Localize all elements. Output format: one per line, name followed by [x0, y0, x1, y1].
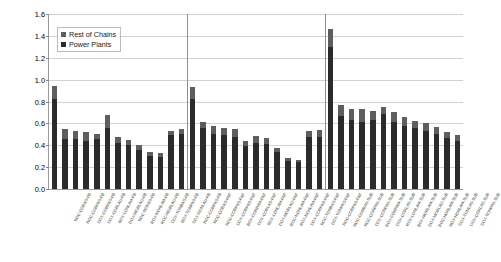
- bar-segment-power-plants: [253, 143, 259, 189]
- bar-segment-power-plants: [381, 114, 387, 189]
- bar-segment-power-plants: [285, 161, 291, 189]
- bar-segment-power-plants: [434, 134, 440, 189]
- bar-segment-power-plants: [190, 99, 196, 189]
- bar-segment-power-plants: [211, 134, 217, 189]
- bar: [221, 128, 227, 189]
- bar: [370, 111, 376, 189]
- bar-segment-power-plants: [412, 128, 418, 189]
- bar: [83, 132, 89, 189]
- bar: [402, 117, 408, 189]
- bar-segment-rest-of-chains: [190, 87, 196, 99]
- bar: [126, 140, 132, 189]
- legend-swatch-power-plants: [61, 42, 66, 47]
- bar-segment-power-plants: [455, 141, 461, 189]
- bar-segment-rest-of-chains: [370, 111, 376, 120]
- y-axis-tick-label: 0.0: [35, 185, 45, 194]
- bar: [94, 134, 100, 189]
- bar-segment-power-plants: [62, 139, 68, 189]
- bar: [115, 137, 121, 189]
- bar: [62, 129, 68, 189]
- bar: [444, 132, 450, 189]
- bar-segment-rest-of-chains: [328, 29, 334, 47]
- bar-segment-power-plants: [158, 157, 164, 189]
- bar-segment-power-plants: [73, 139, 79, 189]
- bar: [381, 107, 387, 189]
- y-axis-tick-label: 1.0: [35, 75, 45, 84]
- bar-segment-rest-of-chains: [232, 129, 238, 137]
- bar: [200, 122, 206, 189]
- bar-segment-power-plants: [147, 156, 153, 189]
- bar: [264, 138, 270, 189]
- bar-segment-rest-of-chains: [105, 115, 111, 128]
- bar-segment-power-plants: [168, 135, 174, 189]
- bar: [306, 131, 312, 189]
- bar-segment-rest-of-chains: [211, 126, 217, 134]
- bar: [243, 141, 249, 189]
- legend-label-rest-of-chains: Rest of Chains: [69, 30, 116, 39]
- bar-segment-rest-of-chains: [359, 109, 365, 122]
- bar: [232, 129, 238, 189]
- bar-segment-power-plants: [232, 137, 238, 189]
- bar-segment-rest-of-chains: [381, 107, 387, 114]
- bar-segment-power-plants: [306, 137, 312, 189]
- bar: [158, 153, 164, 189]
- bar: [338, 105, 344, 189]
- y-axis-tick-label: 0.4: [35, 141, 45, 150]
- y-axis-tick-label: 1.2: [35, 53, 45, 62]
- bar-segment-power-plants: [338, 116, 344, 189]
- bar-segment-power-plants: [423, 131, 429, 189]
- bar-segment-rest-of-chains: [73, 131, 79, 139]
- bar-segment-power-plants: [349, 120, 355, 189]
- bar-segment-power-plants: [52, 99, 58, 189]
- bar-segment-power-plants: [317, 137, 323, 190]
- y-axis-tick-label: 1.6: [35, 10, 45, 19]
- bar: [412, 121, 418, 189]
- y-axis-tick-label: 1.4: [35, 31, 45, 40]
- bar-segment-power-plants: [359, 122, 365, 189]
- bar: [73, 131, 79, 189]
- bar-segment-power-plants: [402, 126, 408, 189]
- bar: [285, 158, 291, 189]
- bar-segment-rest-of-chains: [62, 129, 68, 139]
- y-axis-tick-mark: [46, 189, 49, 190]
- bar-segment-power-plants: [126, 145, 132, 189]
- bar-segment-power-plants: [221, 135, 227, 189]
- bar-segment-rest-of-chains: [412, 121, 418, 129]
- bar-segment-rest-of-chains: [423, 123, 429, 131]
- bar: [423, 123, 429, 189]
- bar-segment-power-plants: [136, 150, 142, 189]
- bar: [168, 131, 174, 189]
- bar-segment-power-plants: [264, 144, 270, 189]
- bar: [434, 127, 440, 189]
- bar: [349, 109, 355, 189]
- bar-segment-power-plants: [94, 139, 100, 189]
- bar-segment-rest-of-chains: [83, 132, 89, 141]
- bar-segment-rest-of-chains: [221, 128, 227, 135]
- y-axis-title-wrapper: [Million YOLL / year (2020)]: [3, 8, 15, 190]
- y-axis-tick-label: 0.8: [35, 97, 45, 106]
- legend-swatch-rest-of-chains: [61, 32, 66, 37]
- bar: [52, 86, 58, 189]
- bar-segment-power-plants: [444, 138, 450, 189]
- x-axis-labels: ROC-CORAS-FBROC-CORPAS-FBDOX-CORPAS-FBDO…: [48, 192, 463, 262]
- bar-segment-power-plants: [200, 128, 206, 189]
- legend-label-power-plants: Power Plants: [69, 40, 111, 49]
- bar: [136, 145, 142, 189]
- bar: [179, 129, 185, 189]
- bar-segment-power-plants: [296, 162, 302, 189]
- bar: [211, 126, 217, 189]
- bar-segment-power-plants: [243, 146, 249, 189]
- bar-segment-rest-of-chains: [434, 127, 440, 134]
- bar: [147, 152, 153, 189]
- bar-segment-power-plants: [370, 120, 376, 189]
- bar: [296, 160, 302, 189]
- legend: Rest of Chains Power Plants: [57, 27, 121, 52]
- bar-segment-rest-of-chains: [402, 117, 408, 126]
- bar-segment-rest-of-chains: [391, 112, 397, 121]
- bar-segment-rest-of-chains: [349, 109, 355, 120]
- bar: [105, 115, 111, 189]
- legend-item-rest-of-chains: Rest of Chains: [61, 30, 116, 39]
- bar-segment-power-plants: [83, 141, 89, 189]
- bar-segment-rest-of-chains: [338, 105, 344, 116]
